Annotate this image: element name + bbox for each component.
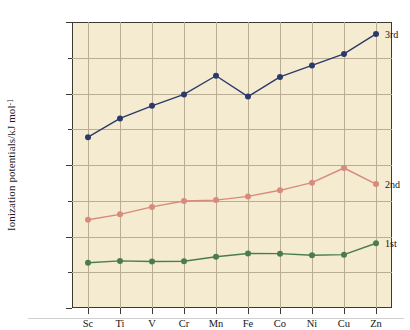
y-axis-tick (66, 22, 72, 23)
y-axis-label: Ionization potentials/kJ mol-1 (0, 0, 22, 330)
x-axis-tick (312, 308, 313, 314)
gridline-vertical (248, 22, 249, 308)
series-label-1st: 1st (385, 238, 397, 249)
gridline-vertical (344, 22, 345, 308)
y-axis-tick (66, 308, 72, 309)
x-axis-tick-label-zn: Zn (356, 318, 396, 329)
gridline-vertical (280, 22, 281, 308)
series-label-3rd: 3rd (385, 28, 398, 39)
y-axis-tick-minor (68, 272, 72, 273)
gridline-vertical (88, 22, 89, 308)
y-axis-tick (66, 237, 72, 238)
x-axis-tick (376, 308, 377, 314)
x-axis-tick (120, 308, 121, 314)
ionization-potentials-chart: Ionization potentials/kJ mol-1 010002000… (0, 0, 410, 330)
gridline-vertical (184, 22, 185, 308)
x-axis-tick (280, 308, 281, 314)
x-axis-tick (88, 308, 89, 314)
y-axis-tick-minor (68, 201, 72, 202)
series-label-2nd: 2nd (385, 179, 400, 190)
y-axis-tick-minor (68, 129, 72, 130)
x-axis-tick (184, 308, 185, 314)
x-axis-tick (216, 308, 217, 314)
plot-wrapper: 01000200030004000 1st2nd3rd ScTiVCrMnFeC… (72, 22, 392, 308)
gridline-vertical (216, 22, 217, 308)
y-axis-tick-minor (68, 58, 72, 59)
x-axis-tick (344, 308, 345, 314)
x-axis-tick (248, 308, 249, 314)
y-axis-tick (66, 94, 72, 95)
gridline-vertical (312, 22, 313, 308)
y-axis-label-text: Ionization potentials/kJ mol (5, 105, 17, 231)
gridline-vertical (152, 22, 153, 308)
y-axis-tick (66, 165, 72, 166)
gridline-vertical (120, 22, 121, 308)
bottom-divider (28, 318, 404, 319)
gridline-vertical (376, 22, 377, 308)
x-axis-tick (152, 308, 153, 314)
